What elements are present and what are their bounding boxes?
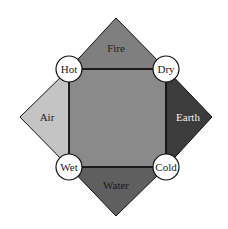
quality-hot: Hot [56,56,82,82]
water-label: Water [103,179,129,191]
wet-label: Wet [60,161,77,173]
fire-label: Fire [107,42,125,54]
quality-dry: Dry [153,56,179,82]
center-square [69,69,166,167]
water-triangle [69,167,166,216]
elements-qualities-diagram: Fire Air Earth Water Hot Dry Wet Cold [0,0,228,229]
dry-label: Dry [157,63,175,75]
earth-label: Earth [176,111,200,123]
air-label: Air [40,111,55,123]
quality-wet: Wet [56,154,82,180]
hot-label: Hot [61,63,78,75]
cold-label: Cold [155,161,177,173]
quality-cold: Cold [153,154,179,180]
